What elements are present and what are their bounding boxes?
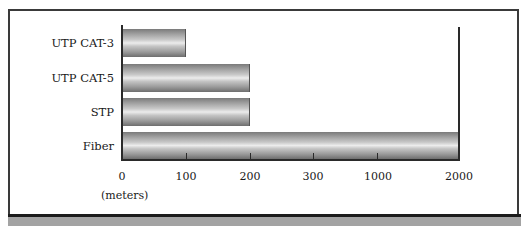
x-tick-label-300: 300 (303, 170, 324, 183)
category-label-utp-cat3: UTP CAT-3 (51, 36, 114, 50)
right-boundary-line (458, 27, 460, 160)
y-axis (121, 25, 123, 160)
bar-utp-cat5 (123, 64, 250, 92)
x-axis (121, 159, 460, 161)
x-tick-label-0: 0 (119, 170, 126, 183)
bar-utp-cat3 (123, 29, 186, 57)
x-tick-label-100: 100 (176, 170, 197, 183)
x-tick-1000 (377, 153, 378, 160)
category-label-stp: STP (91, 105, 114, 119)
x-tick-label-1000: 1000 (364, 170, 392, 183)
category-label-fiber: Fiber (83, 139, 114, 153)
category-label-utp-cat5: UTP CAT-5 (51, 71, 114, 85)
footer-strip (8, 217, 521, 226)
x-tick-100 (186, 153, 187, 160)
x-tick-label-200: 200 (240, 170, 261, 183)
x-tick-300 (313, 153, 314, 160)
x-tick-200 (250, 153, 251, 160)
bar-stp (123, 98, 250, 126)
x-tick-label-2000: 2000 (445, 170, 473, 183)
x-axis-unit-label: (meters) (101, 189, 148, 202)
bar-fiber (123, 132, 459, 159)
